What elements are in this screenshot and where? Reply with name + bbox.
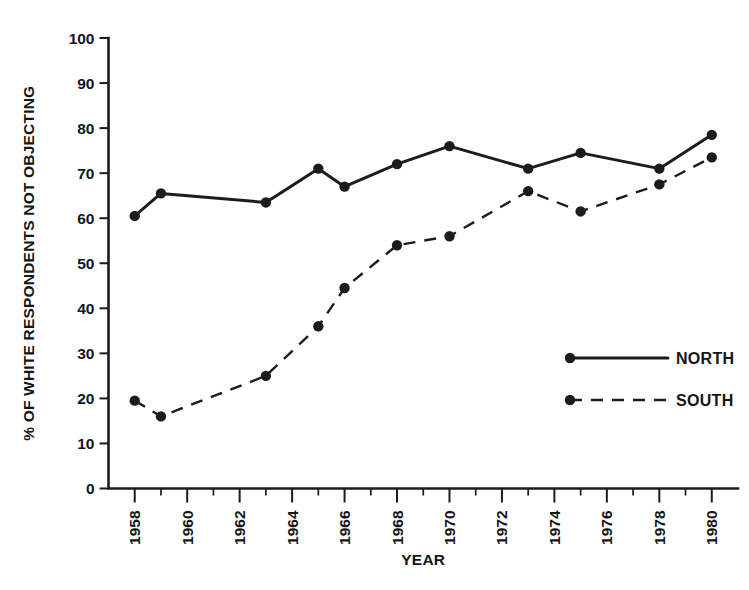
x-tick-label-1972: 1972 bbox=[493, 511, 510, 545]
data-point-north-1978 bbox=[654, 163, 664, 173]
series-line-north bbox=[135, 135, 712, 216]
legend-label-north: NORTH bbox=[676, 350, 734, 367]
data-point-south-1975 bbox=[575, 206, 585, 216]
data-point-north-1966 bbox=[339, 181, 349, 191]
y-tick-label-100: 100 bbox=[69, 30, 95, 47]
x-tick-label-1960: 1960 bbox=[179, 511, 196, 545]
y-tick-label-30: 30 bbox=[77, 345, 94, 362]
data-point-south-1968 bbox=[392, 240, 402, 250]
x-tick-label-1968: 1968 bbox=[389, 510, 406, 545]
x-tick-label-1958: 1958 bbox=[126, 510, 143, 545]
data-point-north-1975 bbox=[575, 148, 585, 158]
legend-marker-south bbox=[565, 395, 575, 405]
data-point-south-1959 bbox=[156, 411, 166, 421]
y-tick-label-60: 60 bbox=[77, 210, 94, 227]
data-point-north-1965 bbox=[313, 163, 323, 173]
y-tick-label-10: 10 bbox=[77, 435, 94, 452]
axis-ticks bbox=[100, 38, 712, 503]
y-tick-label-20: 20 bbox=[77, 390, 94, 407]
x-tick-label-1980: 1980 bbox=[703, 511, 720, 545]
data-point-south-1965 bbox=[313, 321, 323, 331]
x-tick-label-1970: 1970 bbox=[441, 511, 458, 545]
x-tick-label-1976: 1976 bbox=[598, 510, 615, 545]
axis-lines bbox=[109, 38, 739, 489]
line-chart: 0102030405060708090100195819601962196419… bbox=[0, 0, 749, 590]
data-point-north-1963 bbox=[261, 197, 271, 207]
data-point-south-1980 bbox=[707, 152, 717, 162]
axis-tick-labels: 0102030405060708090100195819601962196419… bbox=[69, 30, 721, 545]
data-point-south-1958 bbox=[130, 395, 140, 405]
data-point-south-1978 bbox=[654, 179, 664, 189]
data-point-north-1970 bbox=[444, 141, 454, 151]
x-tick-label-1974: 1974 bbox=[546, 510, 563, 545]
data-point-north-1959 bbox=[156, 188, 166, 198]
data-point-north-1968 bbox=[392, 159, 402, 169]
chart-data-markers bbox=[130, 130, 717, 422]
y-tick-label-0: 0 bbox=[86, 480, 95, 497]
x-axis-title: YEAR bbox=[401, 551, 445, 568]
data-point-north-1980 bbox=[707, 130, 717, 140]
y-tick-label-70: 70 bbox=[77, 165, 94, 182]
y-axis-title: % OF WHITE RESPONDENTS NOT OBJECTING bbox=[20, 86, 37, 441]
data-point-south-1963 bbox=[261, 371, 271, 381]
x-tick-label-1978: 1978 bbox=[651, 510, 668, 545]
data-point-south-1970 bbox=[444, 231, 454, 241]
chart-legend: NORTHSOUTH bbox=[565, 350, 735, 409]
data-point-north-1973 bbox=[523, 163, 533, 173]
data-point-south-1966 bbox=[339, 283, 349, 293]
legend-marker-north bbox=[565, 353, 575, 363]
y-tick-label-50: 50 bbox=[77, 255, 94, 272]
data-point-south-1973 bbox=[523, 186, 533, 196]
chart-axis-titles: % OF WHITE RESPONDENTS NOT OBJECTINGYEAR bbox=[20, 86, 445, 568]
legend-label-south: SOUTH bbox=[676, 392, 734, 409]
x-tick-label-1962: 1962 bbox=[231, 511, 248, 545]
y-tick-label-80: 80 bbox=[77, 120, 94, 137]
x-tick-label-1964: 1964 bbox=[284, 510, 301, 545]
y-tick-label-40: 40 bbox=[77, 300, 94, 317]
x-tick-label-1966: 1966 bbox=[336, 510, 353, 545]
y-tick-label-90: 90 bbox=[77, 75, 94, 92]
data-point-north-1958 bbox=[130, 211, 140, 221]
chart-container: 0102030405060708090100195819601962196419… bbox=[0, 0, 749, 590]
chart-series bbox=[135, 135, 712, 417]
series-line-south bbox=[135, 157, 712, 416]
chart-axes bbox=[109, 38, 739, 489]
